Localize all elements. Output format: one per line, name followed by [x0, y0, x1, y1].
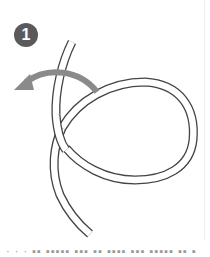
step-number-badge: 1	[14, 23, 38, 47]
step-caption: · · · ▪▪ ▪▪▪▪▪ ▪▪▪ ▪▪ ▪▪▪▪ ▪▪▪ ▪▪▪▪▪ ▪▪ …	[6, 245, 202, 257]
rope-icon	[54, 42, 193, 234]
